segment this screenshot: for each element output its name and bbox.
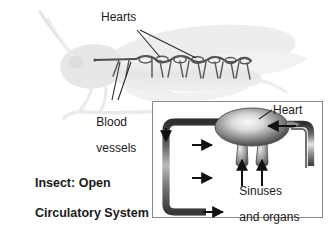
label-hearts: Hearts xyxy=(101,11,136,24)
label-blood-vessels: Blood vessels xyxy=(83,103,136,168)
figure-title-line1: Insect: Open xyxy=(35,176,111,190)
label-sinuses-line2: and organs xyxy=(239,210,299,224)
label-sinuses-and-organs: Sinuses and organs xyxy=(226,172,299,235)
figure-title: Insect: Open Circulatory System xyxy=(21,161,149,235)
label-sinuses-line1: Sinuses xyxy=(239,184,282,198)
label-blood-vessels-line1: Blood xyxy=(96,115,127,129)
label-heart: Heart xyxy=(273,104,302,117)
figure-title-line2: Circulatory System xyxy=(35,206,149,220)
label-blood-vessels-line2: vessels xyxy=(96,141,136,155)
insect-open-circulatory-system-figure: Hearts Blood vessels Insect: Open Circul… xyxy=(0,0,335,235)
